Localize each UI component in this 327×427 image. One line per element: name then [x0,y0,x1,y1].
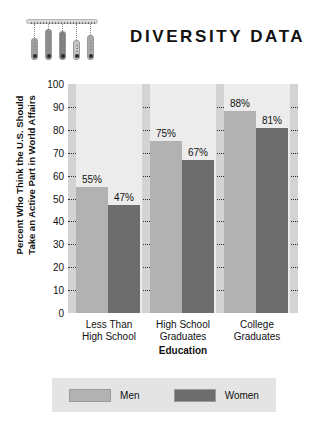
y-axis-title-line-1: Percent Who Think the U.S. Should [14,96,26,255]
deco-bar-knob [75,54,79,58]
page-title: DIVERSITY DATA [130,27,305,47]
bar-women[interactable] [256,128,288,313]
deco-bar-dots [76,44,78,52]
chart-legend: MenWomen [52,378,276,412]
deco-bar-dots [90,39,92,52]
bar-women[interactable] [108,205,140,313]
y-axis-tick-label: 10 [36,285,64,296]
bar-value-label: 67% [178,147,218,158]
y-axis-tick-label: 0 [36,308,64,319]
bar-chart: Percent Who Think the U.S. Should Take a… [0,76,327,336]
deco-bar [31,38,38,60]
x-axis-category-label: CollegeGraduates [212,319,302,342]
deco-stem [76,24,77,40]
deco-stem [90,24,91,35]
deco-bar-knob [33,54,37,58]
legend-item-women[interactable]: Women [174,389,259,402]
bar-value-label: 81% [252,115,292,126]
legend-swatch [174,389,216,402]
deco-bar [87,35,94,60]
deco-bar-dots [48,33,50,52]
hanging-bars-graphic [26,19,98,74]
bar-men[interactable] [224,111,256,313]
x-axis-category-line: College [212,319,302,331]
legend-item-men[interactable]: Men [69,389,139,402]
bar-women[interactable] [182,160,214,313]
deco-rail-dots [30,22,96,24]
legend-label: Men [120,390,139,401]
y-axis-tick-label: 90 [36,101,64,112]
y-axis-tick-label: 40 [36,216,64,227]
y-axis-tick-label: 30 [36,239,64,250]
deco-bar-dots [34,42,36,52]
bar-value-label: 75% [146,128,186,139]
deco-stem [62,24,63,31]
bar-men[interactable] [76,187,108,313]
x-axis-title: Education [68,345,298,356]
header: DIVERSITY DATA [0,0,327,76]
deco-bar-knob [47,54,51,58]
deco-stem [34,24,35,38]
y-axis-tick-label: 70 [36,147,64,158]
x-axis-category-line: Graduates [212,331,302,343]
bar-value-label: 47% [104,192,144,203]
deco-bar [45,29,52,60]
bar-men[interactable] [150,141,182,313]
legend-label: Women [225,390,259,401]
y-axis-tick-label: 20 [36,262,64,273]
deco-bar [73,40,80,60]
deco-bar [59,31,66,60]
y-axis-tick-label: 50 [36,193,64,204]
y-axis-ticks: 0102030405060708090100 [36,76,64,316]
y-axis-tick-label: 80 [36,124,64,135]
bar-value-label: 55% [72,174,112,185]
deco-bar-knob [61,54,65,58]
deco-bar-dots [62,35,64,52]
bar-value-label: 88% [220,98,260,109]
deco-bar-knob [89,54,93,58]
legend-swatch [69,389,111,402]
y-axis-tick-label: 100 [36,79,64,90]
y-axis-tick-label: 60 [36,170,64,181]
